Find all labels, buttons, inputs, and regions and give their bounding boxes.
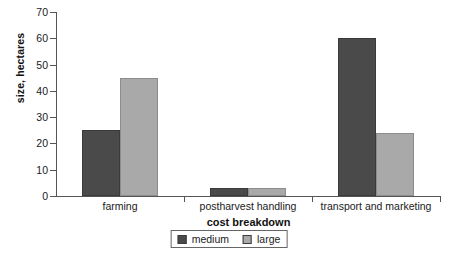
y-tick-label: 0 [4,191,48,201]
y-axis-line [56,12,57,197]
legend-swatch-medium-icon [178,235,187,244]
legend: medium large [171,230,288,248]
legend-label-large: large [257,233,280,245]
y-tick [50,65,56,66]
legend-entry-medium[interactable]: medium [178,233,229,245]
y-tick-label: 60 [4,33,48,43]
legend-swatch-large-icon [243,235,252,244]
bar-large-postharvest-handling [248,188,286,196]
bar-chart: size, hectares 010203040506070 farmingpo… [0,0,458,258]
x-category-label: farming [56,200,184,212]
y-tick [50,143,56,144]
bar-large-transport-and-marketing [376,133,414,196]
x-category-label: postharvest handling [184,200,312,212]
y-tick [50,91,56,92]
bar-medium-transport-and-marketing [338,38,376,196]
y-tick-label: 20 [4,138,48,148]
bar-large-farming [120,78,158,196]
y-tick-label: 50 [4,60,48,70]
x-category-label: transport and marketing [312,200,440,212]
y-tick-label: 70 [4,7,48,17]
bar-medium-postharvest-handling [210,188,248,196]
x-tick [440,196,441,202]
x-axis-title: cost breakdown [56,216,441,228]
y-tick-label: 30 [4,112,48,122]
y-tick-label: 10 [4,165,48,175]
legend-entry-large[interactable]: large [243,233,280,245]
y-tick-label: 40 [4,86,48,96]
bar-medium-farming [82,130,120,196]
legend-label-medium: medium [192,233,229,245]
y-tick [50,38,56,39]
y-tick [50,12,56,13]
x-axis-line [56,196,441,197]
y-tick [50,196,56,197]
y-tick [50,117,56,118]
y-tick [50,170,56,171]
